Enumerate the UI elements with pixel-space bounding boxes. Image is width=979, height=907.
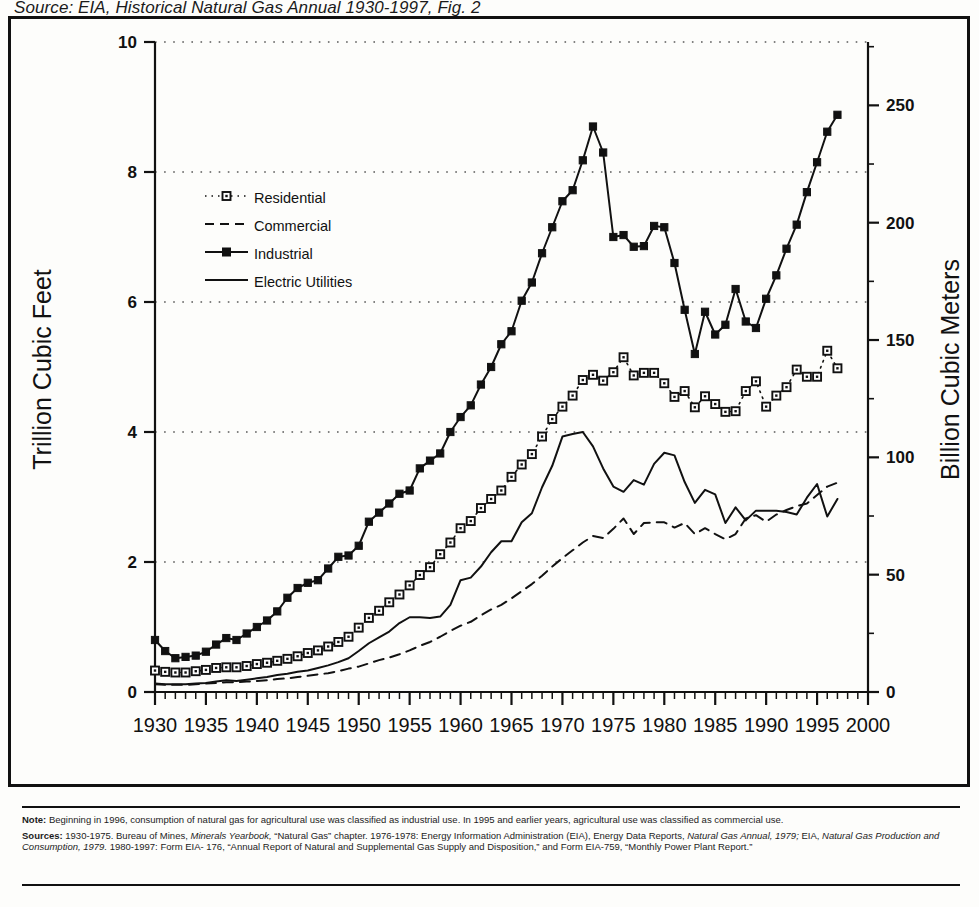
bottom-divider [22,884,960,886]
legend-label-commercial: Commercial [254,218,331,234]
note-text: Beginning in 1996, consumption of natura… [46,814,783,825]
note-label: Note: [22,814,46,825]
sources-italic-2: Natural Gas Annual, 1979; [687,830,799,841]
y-axis-title-left: Trillion Cubic Feet [28,210,57,530]
notes-divider [22,806,960,808]
sources-text-1: 1930-1975. Bureau of Mines, [63,830,191,841]
figure-root: Source: EIA, Historical Natural Gas Annu… [0,0,979,907]
y-axis-title-right: Billion Cubic Meters [936,210,965,530]
sources-text-3: EIA, [799,830,822,841]
sources-label: Sources: [22,830,63,841]
figure-border [8,16,970,787]
sources-italic-1: Minerals Yearbook, [190,830,271,841]
legend-label-electric-utilities: Electric Utilities [254,274,352,290]
legend-label-industrial: Industrial [254,246,313,262]
sources-text-2: “Natural Gas” chapter. 1976-1978: Energy… [272,830,688,841]
sources-paragraph: Sources: 1930-1975. Bureau of Mines, Min… [22,830,962,853]
notes-block: Note: Beginning in 1996, consumption of … [22,814,962,857]
note-paragraph: Note: Beginning in 1996, consumption of … [22,814,962,826]
sources-text-4: 1980-1997: Form EIA- 176, “Annual Report… [107,841,752,852]
legend-label-residential: Residential [254,190,326,206]
